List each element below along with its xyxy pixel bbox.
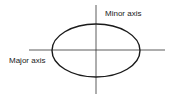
minor-axis-label: Minor axis	[105, 10, 141, 18]
ellipse-diagram	[0, 0, 173, 101]
major-axis-label: Major axis	[9, 57, 45, 65]
